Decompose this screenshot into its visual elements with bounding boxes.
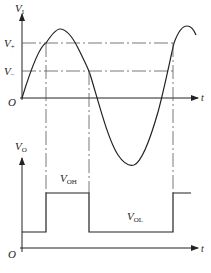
v-plus-label: V+ [4, 37, 15, 51]
upper-plot: VI t O V+ V− [4, 2, 204, 165]
lower-plot: VO t O VOH VOL [8, 140, 204, 260]
v-oh-label: VOH [60, 172, 77, 186]
upper-origin-label: O [8, 96, 16, 108]
output-square-wave [22, 193, 191, 232]
waveform-diagram: VI t O V+ V− VO t O VOH VOL [0, 0, 211, 273]
lower-x-axis-label: t [201, 243, 204, 254]
upper-x-axis-label: t [201, 92, 204, 103]
lower-origin-label: O [8, 248, 16, 260]
v-minus-label: V− [4, 65, 15, 79]
upper-y-axis-label: VI [15, 2, 25, 16]
v-ol-label: VOL [127, 210, 143, 224]
lower-y-axis-label: VO [15, 140, 27, 154]
transition-guides [46, 43, 173, 193]
input-sine-wave [22, 26, 196, 165]
